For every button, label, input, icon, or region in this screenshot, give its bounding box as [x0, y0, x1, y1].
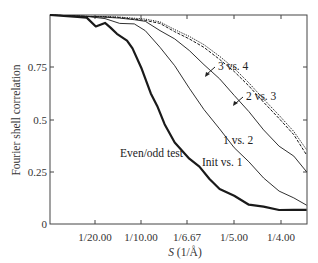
- x-axis-ticks: [95, 15, 281, 224]
- x-axis-title: S (1/Å): [168, 245, 202, 259]
- x-tick-label: 1/4.00: [267, 231, 295, 243]
- y-tick-label: 0.75: [28, 61, 48, 73]
- y-tick-label: 0.25: [28, 166, 48, 178]
- y-tick-label: 0: [42, 218, 48, 230]
- series-layer: [50, 15, 307, 210]
- x-tick-label: 1/6.67: [173, 231, 201, 243]
- annotation-2-vs-3: 2 vs. 3: [246, 90, 277, 102]
- x-tick-label: 1/20.00: [78, 231, 112, 243]
- series-even-odd-test: [50, 15, 307, 210]
- y-tick-label: 0.5: [33, 114, 47, 126]
- x-axis-unit: (1/Å): [174, 245, 202, 259]
- annotation-even-odd: Even/odd test: [120, 147, 184, 159]
- plot-frame: [50, 15, 307, 224]
- y-axis-title: Fourier shell correlation: [10, 64, 22, 175]
- x-tick-label: 1/10.00: [124, 231, 158, 243]
- fsc-chart: 1/20.00 1/10.00 1/6.67 1/5.00 1/4.00 0 0…: [0, 0, 318, 263]
- arrowhead-3-vs-4-icon: [205, 72, 210, 77]
- series-3-vs-4: [50, 15, 307, 150]
- series-init-vs-1: [50, 15, 307, 205]
- annotation-3-vs-4: 3 vs. 4: [218, 60, 249, 72]
- annotation-init-vs-1: Init vs. 1: [202, 156, 243, 168]
- annotation-1-vs-2: 1 vs. 2: [223, 134, 254, 146]
- x-tick-labels: 1/20.00 1/10.00 1/6.67 1/5.00 1/4.00: [78, 231, 295, 243]
- x-tick-label: 1/5.00: [220, 231, 248, 243]
- y-tick-labels: 0 0.25 0.5 0.75: [28, 61, 48, 230]
